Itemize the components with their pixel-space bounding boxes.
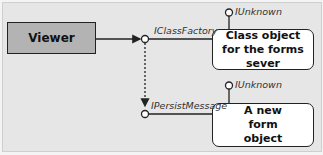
- class-object-box: Class object for the forms sever: [212, 29, 314, 70]
- new-form-object-box: A new form object: [212, 103, 314, 147]
- iunknown-top-label: IUnknown: [235, 6, 282, 17]
- iunknown-bottom-lollipop-icon: [226, 82, 233, 89]
- new-form-label: A new form object: [228, 104, 298, 146]
- iunknown-top-lollipop-icon: [226, 9, 233, 16]
- iunknown-bottom-label: IUnknown: [235, 79, 282, 90]
- class-object-label: Class object for the forms sever: [215, 29, 311, 71]
- iclassfactory-lollipop-icon: [142, 36, 149, 43]
- viewer-box: Viewer: [7, 22, 96, 54]
- iclassfactory-label: IClassFactory: [154, 25, 217, 36]
- ipersistmessage-label: IPersistMessage: [151, 100, 227, 111]
- ipersistmessage-lollipop-icon: [142, 111, 149, 118]
